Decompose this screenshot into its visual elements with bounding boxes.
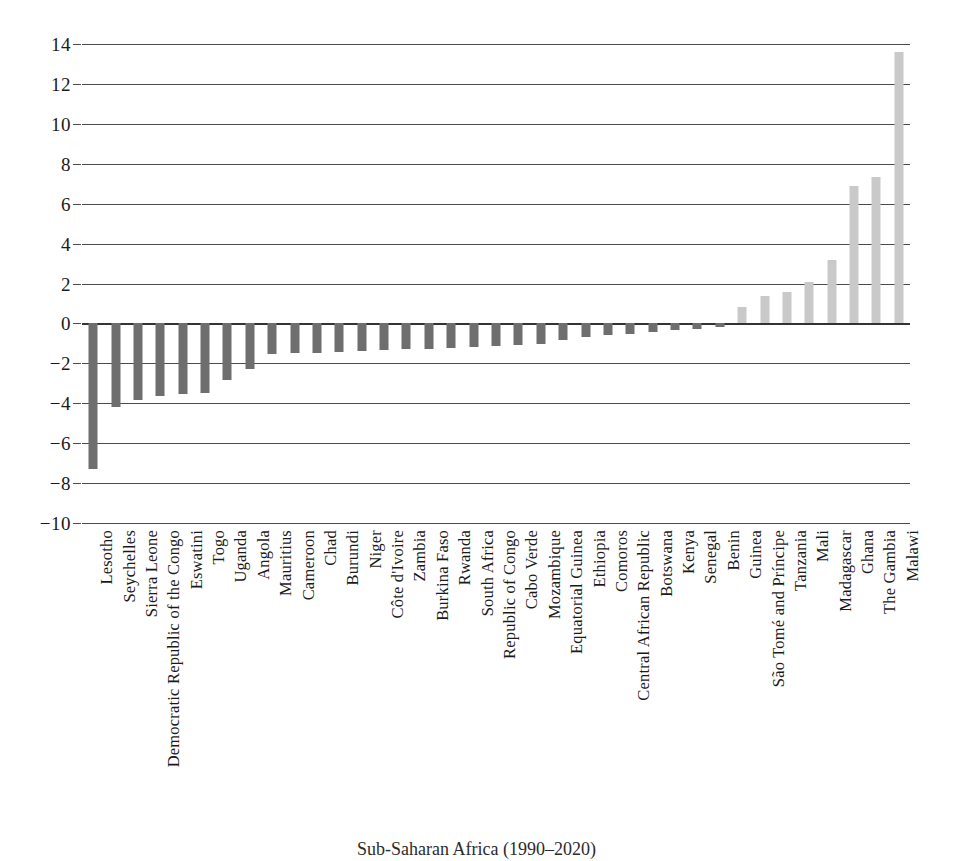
bar[interactable]: [850, 186, 859, 324]
bar[interactable]: [872, 177, 881, 324]
bar[interactable]: [894, 52, 903, 323]
bar-slot[interactable]: [798, 44, 820, 523]
y-tick-mark: [73, 323, 81, 324]
bar[interactable]: [245, 323, 254, 369]
bar[interactable]: [312, 323, 321, 353]
y-tick-mark: [73, 483, 81, 484]
bar-slot[interactable]: [530, 44, 552, 523]
bar-slot[interactable]: [709, 44, 731, 523]
bar[interactable]: [402, 323, 411, 349]
bar-slot[interactable]: [194, 44, 216, 523]
y-tick-label: 4: [61, 234, 71, 253]
bar[interactable]: [715, 323, 724, 327]
bar[interactable]: [514, 323, 523, 345]
bar-slot[interactable]: [104, 44, 126, 523]
y-tick-mark: [73, 164, 81, 165]
x-tick-label: Republic of Congo: [502, 530, 519, 659]
x-tick-label: Ethiopia: [592, 530, 609, 588]
bar-slot[interactable]: [507, 44, 529, 523]
bar[interactable]: [738, 307, 747, 323]
bar-slot[interactable]: [597, 44, 619, 523]
bar[interactable]: [380, 323, 389, 350]
bar-slot[interactable]: [731, 44, 753, 523]
bar-slot[interactable]: [485, 44, 507, 523]
bar-slot[interactable]: [82, 44, 104, 523]
bar-slot[interactable]: [149, 44, 171, 523]
bar-slot[interactable]: [619, 44, 641, 523]
bar-slot[interactable]: [820, 44, 842, 523]
bar[interactable]: [536, 323, 545, 344]
bar-slot[interactable]: [641, 44, 663, 523]
bar-slot[interactable]: [216, 44, 238, 523]
bar-slot[interactable]: [574, 44, 596, 523]
bar-slot[interactable]: [776, 44, 798, 523]
x-tick-label: Mali: [815, 530, 832, 562]
x-tick-label: Sierra Leone: [144, 530, 161, 617]
bar-slot[interactable]: [328, 44, 350, 523]
x-tick-label: Uganda: [233, 530, 250, 583]
bar[interactable]: [156, 323, 165, 396]
bar[interactable]: [447, 323, 456, 348]
bar-slot[interactable]: [552, 44, 574, 523]
bar-slot[interactable]: [462, 44, 484, 523]
bar[interactable]: [693, 323, 702, 329]
x-tick-label: Comoros: [614, 530, 631, 592]
bar-slot[interactable]: [283, 44, 305, 523]
x-tick-label: São Tomé and Príncipe: [771, 530, 788, 687]
bar-slot[interactable]: [686, 44, 708, 523]
x-tick-label: Cameroon: [301, 530, 318, 600]
x-tick-label: Angola: [256, 530, 273, 580]
x-tick-label: Kenya: [681, 530, 698, 574]
bar[interactable]: [559, 323, 568, 340]
bar[interactable]: [782, 292, 791, 323]
bar[interactable]: [178, 323, 187, 394]
x-tick-label: Central African Republic: [636, 530, 653, 701]
bar-slot[interactable]: [351, 44, 373, 523]
y-tick-label: 10: [51, 114, 71, 133]
bar[interactable]: [223, 323, 232, 380]
bar[interactable]: [133, 323, 142, 400]
bar-slot[interactable]: [753, 44, 775, 523]
bar[interactable]: [290, 323, 299, 353]
bar-slot[interactable]: [888, 44, 910, 523]
bar-slot[interactable]: [373, 44, 395, 523]
bar[interactable]: [827, 260, 836, 324]
bar[interactable]: [89, 323, 98, 469]
bar[interactable]: [648, 323, 657, 332]
bar[interactable]: [581, 323, 590, 337]
bar-slot[interactable]: [127, 44, 149, 523]
bar-slot[interactable]: [395, 44, 417, 523]
bar-slot[interactable]: [172, 44, 194, 523]
x-tick-label: Lesotho: [99, 530, 116, 585]
bar-slot[interactable]: [261, 44, 283, 523]
bar-slot[interactable]: [418, 44, 440, 523]
bar[interactable]: [671, 323, 680, 330]
bar[interactable]: [491, 323, 500, 346]
bar[interactable]: [201, 323, 210, 393]
figure-caption: Sub-Saharan Africa (1990–2020): [0, 838, 953, 861]
bar[interactable]: [469, 323, 478, 347]
bar[interactable]: [603, 323, 612, 335]
y-tick-mark: [73, 523, 81, 524]
bar[interactable]: [626, 323, 635, 334]
bar[interactable]: [424, 323, 433, 349]
x-tick-label: Guinea: [748, 530, 765, 579]
bar-slot[interactable]: [865, 44, 887, 523]
x-tick-label: Rwanda: [457, 530, 474, 585]
bar[interactable]: [268, 323, 277, 354]
bar-slot[interactable]: [664, 44, 686, 523]
bar[interactable]: [335, 323, 344, 352]
bar[interactable]: [760, 296, 769, 323]
x-tick-label: Côte d'Ivoire: [390, 530, 407, 619]
bar-slot[interactable]: [239, 44, 261, 523]
bar[interactable]: [357, 323, 366, 351]
x-tick-label: Madagascar: [838, 530, 855, 612]
y-tick-label: −6: [50, 434, 71, 453]
bar-slot[interactable]: [843, 44, 865, 523]
x-tick-label: Democratic Republic of the Congo: [166, 530, 183, 767]
bar[interactable]: [111, 323, 120, 407]
x-tick-label: Equatorial Guinea: [569, 530, 586, 654]
bar-slot[interactable]: [440, 44, 462, 523]
bar[interactable]: [805, 282, 814, 324]
bar-slot[interactable]: [306, 44, 328, 523]
